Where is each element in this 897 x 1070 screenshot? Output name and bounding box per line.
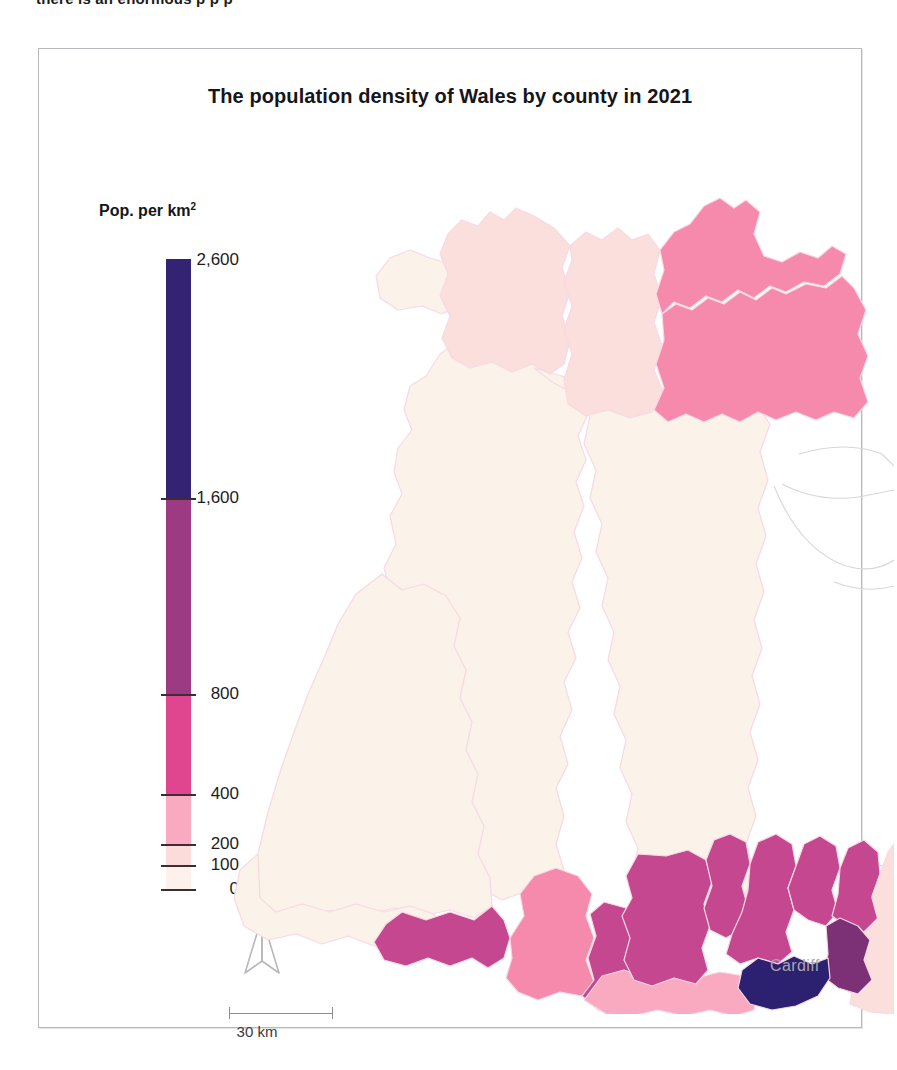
color-band-1600-2600 [166,259,191,498]
county-blaenau-gwent [788,836,840,926]
legend-tick-label-1600: 1,600 [155,489,239,506]
scale-bar-label: 30 km [191,1023,341,1040]
county-conwy [440,208,570,374]
color-band-800-1600 [166,498,191,694]
legend-tick-label-400: 400 [155,785,239,802]
color-band-400-800 [166,694,191,794]
county-denbighshire [564,228,664,418]
legend-title-text: Pop. per km [99,202,191,219]
wales-map-svg [234,154,894,1014]
page-title: The population density of Wales by count… [39,85,861,108]
county-ceredigion-carmarthenshire [252,574,492,918]
legend-tick-label-2600: 2,600 [155,251,239,268]
legend-title: Pop. per km2 [99,201,196,220]
choropleth-map [234,154,894,1014]
legend: Pop. per km2 2,600 1,600 800 400 200 100… [69,201,239,961]
city-label-cardiff: Cardiff [770,957,820,975]
legend-tick-label-100: 100 [155,856,239,873]
legend-title-superscript: 2 [191,201,197,212]
figure-frame: The population density of Wales by count… [38,48,862,1028]
cutoff-body-text: there is an enormous p p p [36,0,816,10]
county-rhondda-cynon-taf [622,850,712,986]
legend-tick-label-800: 800 [155,685,239,702]
legend-tick-label-200: 200 [155,835,239,852]
